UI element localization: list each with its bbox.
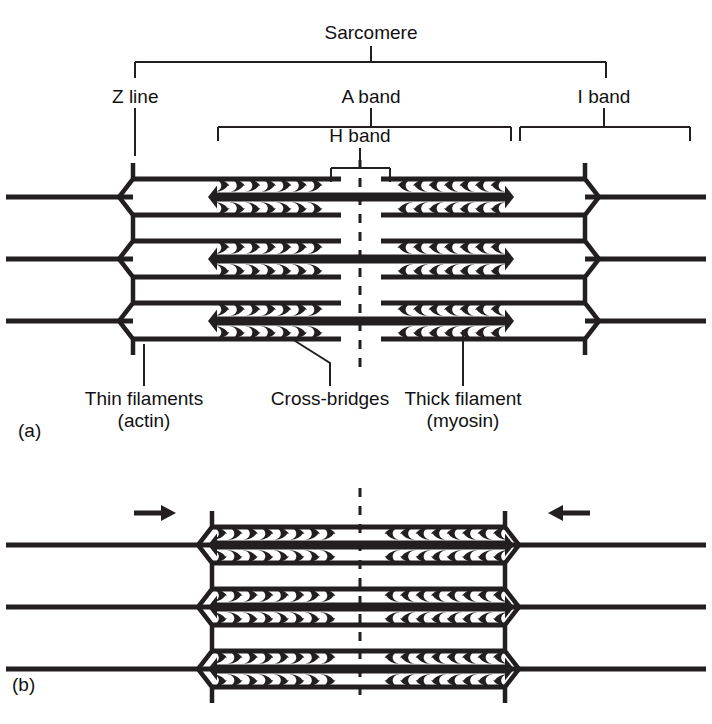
cross-bridge	[478, 590, 494, 602]
cross-bridge	[242, 590, 258, 602]
cross-bridge	[413, 326, 429, 338]
cross-bridge	[273, 528, 289, 540]
cross-bridge	[273, 612, 289, 624]
cross-bridge	[229, 202, 245, 214]
cross-bridge	[416, 590, 432, 602]
cross-bridge	[229, 326, 245, 338]
cross-bridge	[400, 550, 416, 562]
cross-bridge	[273, 590, 289, 602]
cross-bridge	[416, 674, 432, 686]
cross-bridge	[431, 612, 447, 624]
cross-bridge	[462, 612, 478, 624]
thick-filament-a-0-tip	[505, 186, 514, 209]
cross-bridge	[275, 202, 291, 214]
cross-bridge	[260, 264, 276, 276]
cross-bridge	[462, 550, 478, 562]
cross-bridge	[400, 674, 416, 686]
cross-bridge	[304, 652, 320, 664]
cross-bridge	[398, 304, 414, 316]
cross-bridge	[398, 326, 414, 338]
cross-bridge	[431, 674, 447, 686]
cross-bridge	[257, 590, 273, 602]
cross-bridge	[244, 304, 260, 316]
cross-bridge	[260, 304, 276, 316]
cross-bridge	[475, 304, 491, 316]
cross-bridge	[413, 264, 429, 276]
cross-bridge	[288, 612, 304, 624]
cross-bridge	[319, 674, 335, 686]
thick-filament-a-0-tip	[208, 186, 217, 209]
cross-bridge	[304, 590, 320, 602]
i-band-label: I band	[578, 86, 631, 108]
h-band-label: H band	[329, 125, 390, 147]
cross-bridge	[226, 612, 242, 624]
cross-bridge	[211, 652, 227, 664]
cross-bridge	[306, 304, 322, 316]
panel-a-caption: (a)	[18, 420, 41, 442]
sarcomere-figure: Sarcomere Z line A band I band H band Th…	[0, 0, 712, 724]
sarcomere-svg-canvas	[0, 0, 712, 724]
cross-bridge	[400, 590, 416, 602]
thick-filament-a-1-tip	[505, 248, 514, 271]
cross-bridge	[462, 528, 478, 540]
cross-bridge	[260, 326, 276, 338]
cross-bridge	[306, 326, 322, 338]
cross-bridge	[273, 550, 289, 562]
cross-bridge	[444, 326, 460, 338]
cross-bridge	[475, 326, 491, 338]
cross-bridge	[462, 652, 478, 664]
cross-bridge	[306, 264, 322, 276]
cross-bridge	[398, 202, 414, 214]
cross-bridge	[244, 264, 260, 276]
cross-bridge	[478, 528, 494, 540]
cross-bridge	[211, 590, 227, 602]
cross-bridge	[275, 326, 291, 338]
cross-bridge	[275, 242, 291, 254]
cross-bridge	[416, 652, 432, 664]
cross-bridge	[385, 612, 401, 624]
cross-bridge	[304, 612, 320, 624]
cross-bridge	[491, 304, 507, 316]
cross-bridge	[478, 674, 494, 686]
thick-filament-label-line1: Thick filament	[404, 388, 521, 410]
cross-bridge	[460, 304, 476, 316]
cross-bridge	[416, 612, 432, 624]
cross-bridges-leader	[292, 339, 330, 386]
cross-bridge	[257, 652, 273, 664]
cross-bridge	[444, 180, 460, 192]
cross-bridge	[319, 528, 335, 540]
cross-bridge	[288, 674, 304, 686]
cross-bridge	[288, 590, 304, 602]
cross-bridge	[304, 550, 320, 562]
a-band-label: A band	[341, 86, 400, 108]
cross-bridge	[444, 264, 460, 276]
cross-bridge	[257, 528, 273, 540]
cross-bridge	[444, 202, 460, 214]
cross-bridge	[291, 202, 307, 214]
cross-bridge	[211, 674, 227, 686]
cross-bridge	[400, 612, 416, 624]
cross-bridge	[211, 528, 227, 540]
thin-filaments-label-line2: (actin)	[85, 410, 203, 432]
cross-bridge	[229, 264, 245, 276]
cross-bridge	[398, 242, 414, 254]
cross-bridge	[288, 652, 304, 664]
cross-bridge	[242, 674, 258, 686]
cross-bridge	[475, 264, 491, 276]
cross-bridge	[304, 674, 320, 686]
cross-bridge	[288, 550, 304, 562]
cross-bridge	[273, 652, 289, 664]
thick-filament-label-line2: (myosin)	[404, 410, 521, 432]
cross-bridge	[306, 242, 322, 254]
cross-bridge	[319, 652, 335, 664]
thick-filament-label: Thick filament (myosin)	[404, 388, 521, 433]
cross-bridge	[478, 652, 494, 664]
cross-bridge	[447, 652, 463, 664]
cross-bridge	[398, 180, 414, 192]
cross-bridge	[275, 180, 291, 192]
cross-bridge	[444, 304, 460, 316]
cross-bridge	[385, 528, 401, 540]
cross-bridge	[475, 242, 491, 254]
cross-bridge	[275, 264, 291, 276]
cross-bridge	[444, 242, 460, 254]
